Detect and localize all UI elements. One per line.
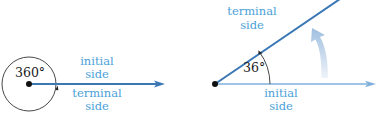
left-figure-360: 360° initial side terminal side <box>2 54 165 113</box>
angle-label-360: 360° <box>15 65 45 80</box>
terminal-side-label-line1: terminal <box>227 4 277 18</box>
angle-label-36: 36° <box>243 60 265 75</box>
vertex-dot <box>212 81 218 87</box>
initial-side-label-line2: side <box>85 67 109 81</box>
initial-side-label-line2: side <box>269 99 293 113</box>
rotation-direction-arrow-icon <box>311 28 328 78</box>
right-figure-36: 36° terminal side initial side <box>212 0 376 113</box>
angle-diagram: 360° initial side terminal side 36° term… <box>0 0 377 121</box>
initial-side-label-line1: initial <box>264 86 298 100</box>
vertex-dot <box>26 81 32 87</box>
terminal-side-label-line1: terminal <box>72 86 122 100</box>
initial-side-label-line1: initial <box>80 54 114 68</box>
terminal-side-label-line2: side <box>240 18 264 32</box>
terminal-side-label-line2: side <box>85 99 109 113</box>
